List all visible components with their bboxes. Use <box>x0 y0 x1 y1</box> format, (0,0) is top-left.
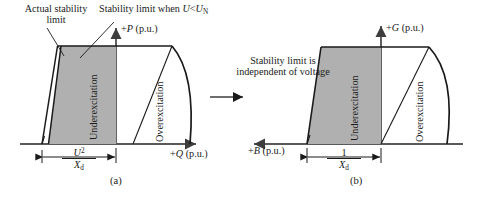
panel-b-y-units: (p.u.) <box>402 22 424 33</box>
panel-a-overexcitation-label: Overexcitation <box>154 81 165 142</box>
panel-b-underexcitation-label: Underexcitation <box>349 75 360 141</box>
annotation-voltage-independent-line1: Stability limit is <box>250 55 316 66</box>
panel-a-x-units: (p.u.) <box>186 148 208 159</box>
panel-a-dimension-numerator: U2 <box>62 147 96 158</box>
annotation-low-voltage-un: U <box>196 3 203 14</box>
panel-b-dimension-numerator: 1 <box>327 147 361 158</box>
panel-b-overexcitation-label: Overexcitation <box>414 81 425 142</box>
panel-b-y-symbol: G <box>392 22 399 33</box>
annotation-actual-stability-limit-line2: limit <box>46 14 65 25</box>
annotation-actual-stability-limit: Actual stability limit <box>6 3 106 26</box>
leader-actual-stability-limit <box>47 28 64 56</box>
panel-b-x-symbol: B <box>254 145 260 156</box>
panel-a-rotor-current-limit <box>133 46 172 144</box>
panel-b-dimension-label: 1 Xd <box>327 147 361 172</box>
annotation-low-voltage-text: Stability limit when <box>99 3 180 14</box>
panel-b-dimension-denominator: Xd <box>327 158 361 172</box>
panel-a-x-symbol: Q <box>176 148 183 159</box>
annotation-low-voltage-u: U <box>182 3 189 14</box>
panel-b-x-axis-label: +B (p.u.) <box>248 145 285 156</box>
annotation-low-voltage-stability-limit: Stability limit when U<UN <box>99 3 208 16</box>
panel-a-underexcitation-label: Underexcitation <box>88 74 99 140</box>
panel-b-caption: (b) <box>350 175 362 187</box>
annotation-low-voltage-un-sub: N <box>203 8 208 16</box>
panel-a-y-axis-label: +P (p.u.) <box>121 23 158 34</box>
panel-a-x-axis-label: +Q (p.u.) <box>170 148 208 159</box>
annotation-voltage-independent: Stability limit is independent of voltag… <box>224 55 342 78</box>
annotation-actual-stability-limit-line1: Actual stability <box>25 3 88 14</box>
panel-b-stator-current-limit <box>429 47 449 144</box>
panel-a-caption: (a) <box>110 175 122 187</box>
panel-b-x-units: (p.u.) <box>263 145 285 156</box>
panel-a-dimension-label: U2 Xd <box>62 147 96 172</box>
annotation-voltage-independent-line2: independent of voltage <box>236 66 329 77</box>
panel-a-stator-current-limit <box>172 46 191 144</box>
figure-canvas: Actual stability limit Stability limit w… <box>0 0 477 198</box>
panel-a-y-units: (p.u.) <box>136 23 158 34</box>
panel-b-y-axis-label: +G (p.u.) <box>386 22 424 33</box>
panel-a-dimension-denominator: Xd <box>62 158 96 172</box>
panel-a-y-symbol: P <box>127 23 133 34</box>
